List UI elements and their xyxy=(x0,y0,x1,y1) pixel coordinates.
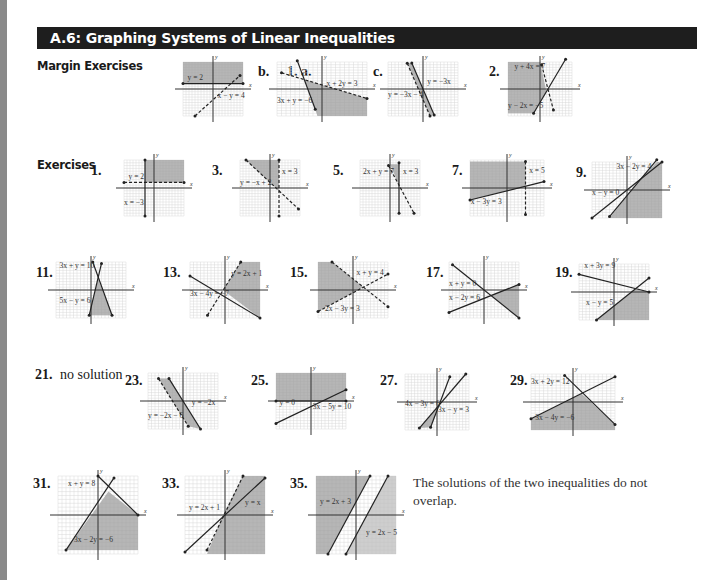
arrow-head-icon xyxy=(184,551,187,554)
y-axis-label: y xyxy=(99,468,103,474)
equation-label: y = −2x − 6 xyxy=(148,411,183,420)
arrow-head-icon xyxy=(157,377,160,380)
equation-label: y = −3x − 4 xyxy=(388,90,423,99)
arrow-head-icon xyxy=(464,373,467,376)
equation-label: y = 2x − 5 xyxy=(366,528,397,537)
y-axis-label: y xyxy=(574,366,578,372)
arrow-head-icon xyxy=(655,158,658,161)
graph-e7: xyx = 5x − 3y = 3 xyxy=(460,150,554,226)
x-axis-label: x xyxy=(549,181,553,187)
arrow-head-icon xyxy=(614,423,617,426)
equation-label: y = x xyxy=(245,498,261,507)
x-axis-label: x xyxy=(620,395,624,401)
graph-e23: xyy = −2xy = −2x − 6 xyxy=(138,363,228,439)
equation-label: 2x + y = 7 xyxy=(363,167,394,176)
arrow-head-icon xyxy=(648,277,651,280)
equation-label: y = 2 xyxy=(188,73,204,82)
arrow-head-icon xyxy=(296,59,299,62)
arrow-head-icon xyxy=(97,475,100,478)
equation-label: x = 5 xyxy=(529,166,545,175)
arrow-head-icon xyxy=(259,317,262,320)
section-header: A.6: Graphing Systems of Linear Inequali… xyxy=(37,27,697,49)
equation-label: y = −3x xyxy=(427,77,451,86)
arrow-head-icon xyxy=(345,553,348,556)
x-axis-label: x xyxy=(577,82,581,88)
equation-label: y = 2x + 3 xyxy=(320,497,351,506)
arrow-head-icon xyxy=(194,115,197,118)
page-edge-strip xyxy=(0,0,7,580)
arrow-head-icon xyxy=(451,263,454,266)
equation-label: y = 2 xyxy=(129,172,145,181)
arrow-head-icon xyxy=(406,62,409,65)
arrow-head-icon xyxy=(275,422,278,425)
graph-e11: xy3x + y = 105x − y = 6 xyxy=(46,252,136,328)
arrow-head-icon xyxy=(187,425,190,428)
x-axis-label: x xyxy=(189,181,193,187)
x-axis-label: x xyxy=(393,283,397,289)
arrow-head-icon xyxy=(182,82,185,85)
arrow-head-icon xyxy=(524,160,527,163)
arrow-head-icon xyxy=(552,109,555,112)
arrow-head-icon xyxy=(199,428,202,431)
arrow-head-icon xyxy=(564,58,567,61)
x-axis-label: x xyxy=(248,82,252,88)
graph-e13: xyy = 2x + 13x − 4y = −7 xyxy=(180,252,270,328)
arrow-head-icon xyxy=(543,180,546,183)
y-axis-label: y xyxy=(628,154,632,160)
graph-e1: xyy = 2x = −3 xyxy=(114,150,194,226)
graph-e27: xy4x − 3y = 63x − y = 3 xyxy=(395,364,479,440)
arrow-head-icon xyxy=(433,113,436,116)
arrow-head-icon xyxy=(608,215,611,218)
equation-label: y = 2x + 1 xyxy=(189,503,220,512)
arrow-head-icon xyxy=(366,97,369,100)
exercise-21-number: 21. xyxy=(35,367,53,383)
y-axis-label: y xyxy=(438,366,442,372)
graph-m1c: xyy = −3xy = −3x − 4 xyxy=(378,52,468,126)
arrow-head-icon xyxy=(591,217,594,220)
arrow-head-icon xyxy=(518,283,521,286)
arrow-head-icon xyxy=(206,549,209,552)
y-axis-label: y xyxy=(424,54,428,60)
graph-e33: xyy = 2x + 1y = x xyxy=(175,466,275,564)
arrow-head-icon xyxy=(239,261,242,264)
arrow-head-icon xyxy=(242,82,245,85)
solution-region xyxy=(145,160,184,182)
graph-e5: xy2x + y = 7x = 3 xyxy=(350,150,430,226)
arrow-head-icon xyxy=(317,310,320,313)
arrow-head-icon xyxy=(614,375,617,378)
arrow-head-icon xyxy=(183,181,186,184)
arrow-head-icon xyxy=(297,208,300,211)
arrow-head-icon xyxy=(239,74,242,77)
equation-label: x = −3 xyxy=(124,198,144,207)
arrow-head-icon xyxy=(345,388,348,391)
y-axis-label: y xyxy=(357,468,361,474)
arrow-head-icon xyxy=(144,159,147,162)
x-axis-label: x xyxy=(270,508,274,514)
equation-label: x + y = 8 xyxy=(68,479,95,488)
graph-m1a: xyy = 2x − y = 4 xyxy=(173,52,253,126)
arrow-head-icon xyxy=(387,475,390,478)
equation-label: 3x − 5y = 10 xyxy=(313,402,352,411)
equation-label: 3x − 2y = 4 xyxy=(617,162,652,171)
equation-label: x = 3 xyxy=(282,167,298,176)
equation-label: 5x − y = 6 xyxy=(60,296,91,305)
arrow-head-icon xyxy=(429,115,432,118)
arrow-head-icon xyxy=(189,275,192,278)
equation-label: y − 2x = −5 xyxy=(508,101,543,110)
equation-label: y = −2x xyxy=(192,398,216,407)
arrow-head-icon xyxy=(65,549,68,552)
arrow-head-icon xyxy=(123,181,126,184)
equation-label: x = 3 xyxy=(403,167,419,176)
arrow-head-icon xyxy=(278,159,281,162)
equation-label: 3x − 2y = −6 xyxy=(74,535,113,544)
graph-e29: xy3x + 2y = 123x − 4y = −6 xyxy=(521,364,625,440)
arrow-head-icon xyxy=(88,314,91,317)
arrow-head-icon xyxy=(410,62,413,65)
equation-label: x − y = 0 xyxy=(592,188,619,197)
y-axis-label: y xyxy=(184,365,188,371)
equation-label: x + 3y = 9 xyxy=(584,261,615,270)
graph-e9: xy3x − 2y = 4x − y = 0 xyxy=(582,152,672,228)
arrow-head-icon xyxy=(245,159,248,162)
equation-label: 3x − 4y = −7 xyxy=(190,289,229,298)
arrow-head-icon xyxy=(278,215,281,218)
